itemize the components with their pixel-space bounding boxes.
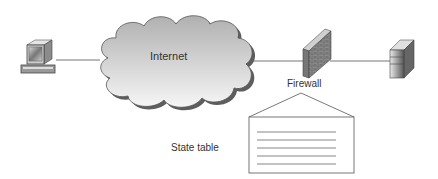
internet-cloud — [101, 16, 255, 111]
firewall-label: Firewall — [287, 78, 321, 89]
server-tower-icon — [390, 40, 414, 78]
network-diagram: Internet Firewall State table — [0, 0, 438, 179]
callout-roof — [249, 93, 354, 117]
firewall-icon — [303, 29, 331, 78]
diagram-graphics — [0, 0, 438, 179]
workstation-icon — [21, 40, 55, 73]
internet-label: Internet — [150, 50, 187, 62]
state-table-label: State table — [171, 142, 219, 153]
state-table-document — [249, 93, 354, 173]
